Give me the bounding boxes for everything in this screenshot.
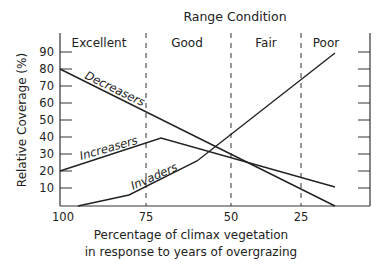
- svg-text:10: 10: [39, 181, 54, 195]
- y-axis-label: Relative Coverage (%): [15, 53, 29, 187]
- region-poor: Poor: [313, 36, 339, 50]
- svg-text:50: 50: [39, 113, 54, 127]
- svg-text:75: 75: [139, 210, 154, 224]
- x-axis-label-line2: in response to years of overgrazing: [85, 245, 297, 259]
- region-good: Good: [171, 36, 203, 50]
- chart-root: Range Condition 90 80 70 60 50 40 30 20 …: [0, 0, 385, 267]
- right-ticks: [358, 52, 370, 188]
- series-label-increasers: Increasers: [78, 133, 139, 163]
- region-fair: Fair: [255, 36, 276, 50]
- series-label-invaders: Invaders: [129, 160, 180, 193]
- svg-text:100: 100: [52, 210, 74, 224]
- svg-text:25: 25: [294, 210, 309, 224]
- svg-text:70: 70: [39, 79, 54, 93]
- svg-text:20: 20: [39, 164, 54, 178]
- svg-text:50: 50: [224, 210, 239, 224]
- series-invaders-line: [78, 53, 335, 206]
- y-tick-labels: 90 80 70 60 50 40 30 20 10: [39, 45, 54, 195]
- svg-text:80: 80: [39, 62, 54, 76]
- svg-text:90: 90: [39, 45, 54, 59]
- series-label-decreasers: Decreasers: [83, 68, 147, 109]
- svg-text:60: 60: [39, 96, 54, 110]
- region-excellent: Excellent: [72, 36, 127, 50]
- region-dividers: [146, 33, 301, 206]
- x-axis-label-line1: Percentage of climax vegetation: [94, 228, 288, 242]
- region-labels: Excellent Good Fair Poor: [72, 36, 340, 50]
- chart-canvas: Range Condition 90 80 70 60 50 40 30 20 …: [0, 0, 385, 267]
- svg-text:30: 30: [39, 147, 54, 161]
- x-tick-labels: 100 75 50 25: [52, 210, 308, 224]
- svg-text:40: 40: [39, 130, 54, 144]
- chart-title: Range Condition: [183, 9, 286, 24]
